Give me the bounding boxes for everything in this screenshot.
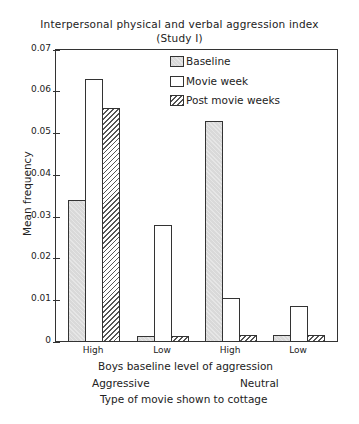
- legend-item-post-movie-weeks: Post movie weeks: [170, 94, 280, 106]
- y-tick-label: 0.01: [17, 293, 51, 303]
- bar-post-movie-weeks: [307, 335, 325, 342]
- bar-post-movie-weeks: [171, 336, 189, 342]
- bar-movie-week: [85, 79, 103, 342]
- legend-swatch-post-movie-weeks: [170, 95, 184, 106]
- y-axis-label: Mean frequency: [21, 156, 33, 236]
- bar-baseline: [68, 200, 86, 342]
- group-label-neutral: Neutral: [240, 377, 279, 389]
- y-tick-mark: [53, 258, 60, 259]
- group-label-aggressive: Aggressive: [92, 377, 150, 389]
- chart-subtitle: (Study I): [0, 32, 359, 44]
- x-category-label: High: [63, 345, 123, 355]
- legend-label: Post movie weeks: [186, 94, 280, 106]
- y-tick-label: 0.02: [17, 251, 51, 261]
- y-tick-mark: [53, 175, 60, 176]
- bar-movie-week: [222, 298, 240, 342]
- y-tick-mark: [53, 342, 60, 343]
- bar-baseline: [273, 335, 291, 342]
- bar-post-movie-weeks: [239, 335, 257, 342]
- x-category-label: Low: [268, 345, 328, 355]
- y-tick-label: 0.07: [17, 43, 51, 53]
- y-tick-mark: [53, 217, 60, 218]
- y-tick-label: 0.05: [17, 126, 51, 136]
- legend-item-baseline: Baseline: [170, 55, 231, 67]
- bar-baseline: [137, 336, 155, 342]
- y-tick-mark: [53, 50, 60, 51]
- bar-movie-week: [154, 225, 172, 342]
- bar-movie-week: [290, 306, 308, 342]
- y-tick-label: 0.06: [17, 84, 51, 94]
- x-category-label: Low: [132, 345, 192, 355]
- y-tick-mark: [53, 133, 60, 134]
- legend-swatch-baseline: [170, 56, 184, 67]
- bar-post-movie-weeks: [102, 108, 120, 342]
- bar-baseline: [205, 121, 223, 343]
- y-tick-mark: [53, 91, 60, 92]
- legend-item-movie-week: Movie week: [170, 75, 248, 87]
- chart-title: Interpersonal physical and verbal aggres…: [0, 18, 359, 30]
- legend-label: Baseline: [186, 55, 231, 67]
- y-tick-label: 0: [17, 335, 51, 345]
- legend-label: Movie week: [186, 75, 248, 87]
- x-axis-label: Boys baseline level of aggression: [98, 360, 273, 372]
- x-axis-footer: Type of movie shown to cottage: [100, 393, 268, 405]
- x-category-label: High: [200, 345, 260, 355]
- y-tick-mark: [53, 300, 60, 301]
- legend-swatch-movie-week: [170, 76, 184, 87]
